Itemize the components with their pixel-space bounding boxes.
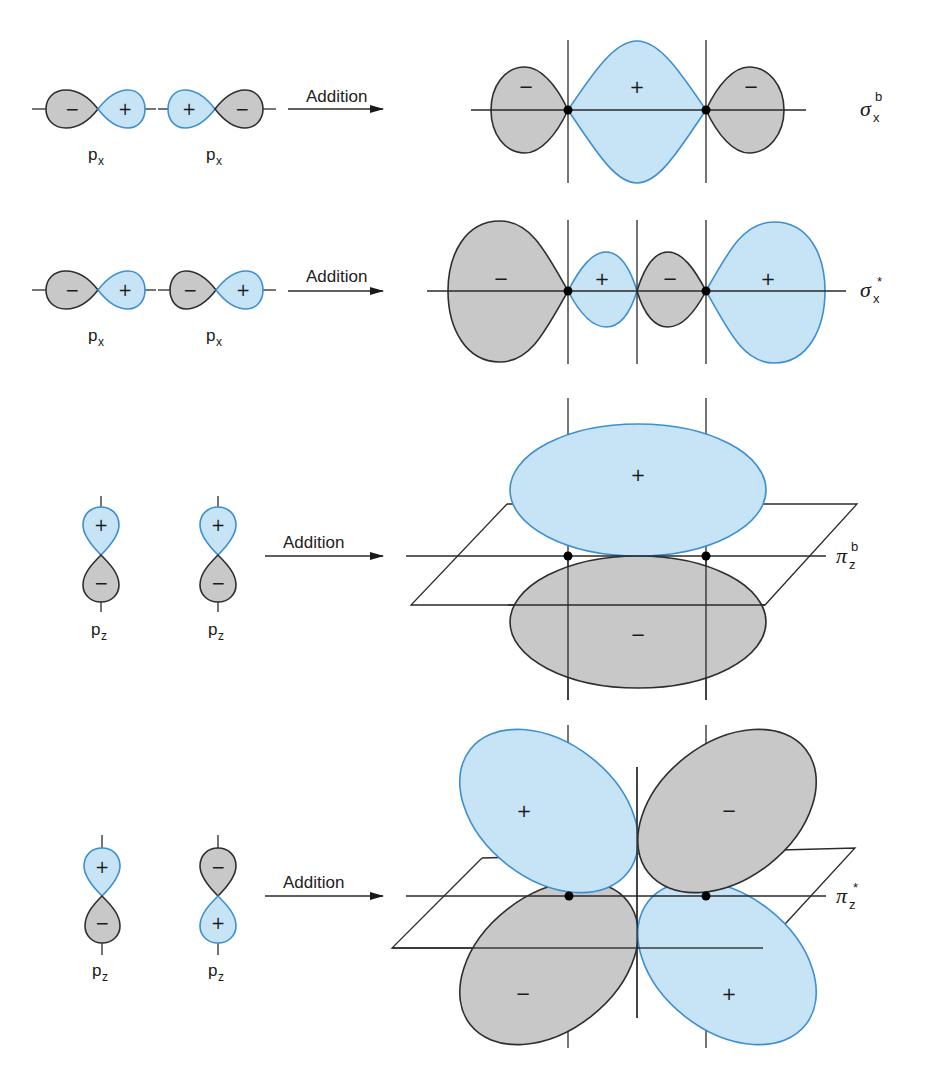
positive-lobe-center — [568, 41, 706, 183]
minus-sign: − — [235, 99, 249, 119]
orbital-label-p: p — [91, 620, 100, 639]
minus-sign: − — [721, 800, 736, 821]
orbital-subscript: x — [98, 154, 104, 168]
minus-sign: − — [515, 983, 530, 1004]
positive-lobe-outer-right — [706, 222, 825, 363]
row-sigma-bonding: − + p x + − p x Addition — [32, 40, 882, 183]
plus-sign: + — [760, 268, 775, 289]
addition-arrow: Addition — [265, 873, 383, 896]
negative-lobe-inner-right — [637, 252, 706, 327]
orbital-subscript: z — [101, 629, 107, 643]
plus-sign: + — [95, 857, 109, 877]
plus-sign: + — [629, 76, 644, 97]
minus-sign: − — [662, 268, 677, 289]
positive-lobe-top — [510, 424, 766, 556]
nucleus-dot — [564, 552, 573, 561]
plus-sign: + — [182, 99, 196, 119]
row-pi-bonding: + − p z + − p z Addition — [83, 398, 858, 700]
orbital-label-p: p — [206, 145, 215, 164]
addition-arrow: Addition — [288, 267, 383, 291]
result-pi-bonding: + − — [406, 398, 857, 700]
orbital-subscript: x — [216, 154, 222, 168]
input-orbital-px-2: + − p x — [158, 90, 276, 168]
minus-sign: − — [493, 268, 508, 289]
plus-sign: + — [211, 515, 225, 535]
svg-text:z: z — [849, 557, 856, 572]
svg-text:b: b — [875, 89, 882, 104]
minus-sign: − — [95, 913, 109, 933]
plus-sign: + — [721, 983, 736, 1004]
mo-label-pi-z-star: π z * — [836, 880, 858, 912]
minus-sign: − — [65, 280, 79, 300]
minus-sign: − — [65, 99, 79, 119]
plus-sign: + — [630, 464, 645, 485]
plus-sign: + — [211, 913, 225, 933]
row-pi-antibonding: + − p z − + p z Addition — [84, 696, 858, 1078]
orbital-subscript: z — [218, 629, 224, 643]
minus-sign: − — [630, 624, 645, 645]
orbital-subscript: x — [98, 335, 104, 349]
orbital-subscript: z — [102, 970, 108, 984]
svg-text:π: π — [836, 543, 848, 568]
mo-label-sigma-x-star: σ x * — [860, 274, 882, 306]
nucleus-dot — [702, 106, 711, 115]
plus-sign: + — [118, 99, 132, 119]
svg-text:x: x — [873, 291, 880, 306]
nucleus-dot — [702, 287, 711, 296]
nucleus-dot — [702, 552, 711, 561]
minus-sign: − — [518, 76, 533, 97]
input-orbital-px-2: − + p x — [158, 271, 276, 349]
orbital-subscript: z — [218, 970, 224, 984]
input-orbital-pz-2: − + p z — [200, 835, 236, 984]
orbital-label-p: p — [88, 326, 97, 345]
svg-text:*: * — [853, 880, 858, 895]
addition-label: Addition — [283, 873, 344, 892]
result-pi-antibonding: + − − + — [392, 696, 855, 1078]
addition-arrow: Addition — [288, 87, 383, 109]
svg-text:π: π — [836, 883, 848, 908]
minus-sign: − — [183, 280, 197, 300]
plus-sign: + — [594, 268, 609, 289]
molecular-orbital-diagram: − + p x + − p x Addition — [0, 0, 930, 1081]
nucleus-dot — [564, 287, 573, 296]
svg-text:b: b — [851, 539, 858, 554]
orbital-subscript: x — [216, 335, 222, 349]
orbital-label-p: p — [208, 620, 217, 639]
orbital-label-p: p — [208, 961, 217, 980]
svg-text:x: x — [873, 110, 880, 125]
minus-sign: − — [743, 76, 758, 97]
minus-sign: − — [94, 573, 108, 593]
orbital-label-p: p — [88, 145, 97, 164]
orbital-label-p: p — [92, 961, 101, 980]
input-orbital-pz-1: + − p z — [84, 835, 120, 984]
nucleus-dot — [702, 892, 711, 901]
addition-label: Addition — [283, 533, 344, 552]
svg-text:*: * — [877, 274, 882, 289]
svg-text:σ: σ — [860, 277, 872, 302]
mo-label-pi-z-b: π z b — [836, 539, 858, 572]
addition-arrow: Addition — [265, 533, 383, 556]
minus-sign: − — [211, 573, 225, 593]
addition-label: Addition — [306, 267, 367, 286]
input-orbital-pz-2: + − p z — [200, 496, 236, 643]
result-sigma-antibonding: − + − + — [427, 220, 846, 364]
addition-label: Addition — [306, 87, 367, 106]
positive-lobe-inner-left — [568, 252, 637, 327]
orbital-label-p: p — [206, 326, 215, 345]
input-orbital-px-1: − + p x — [32, 271, 156, 349]
plus-sign: + — [236, 280, 250, 300]
minus-sign: − — [211, 857, 225, 877]
input-orbital-px-1: − + p x — [32, 90, 156, 168]
mo-label-sigma-x-b: σ x b — [860, 89, 882, 125]
nucleus-dot — [564, 106, 573, 115]
svg-text:z: z — [849, 897, 856, 912]
nucleus-dot — [565, 892, 574, 901]
svg-text:σ: σ — [860, 96, 872, 121]
plus-sign: + — [94, 515, 108, 535]
plus-sign: + — [516, 800, 531, 821]
input-orbital-pz-1: + − p z — [83, 496, 119, 643]
row-sigma-antibonding: − + p x − + p x Addition — [32, 220, 882, 364]
plus-sign: + — [118, 280, 132, 300]
result-sigma-bonding: − + − — [471, 40, 806, 183]
negative-lobe-bottom — [510, 556, 766, 688]
